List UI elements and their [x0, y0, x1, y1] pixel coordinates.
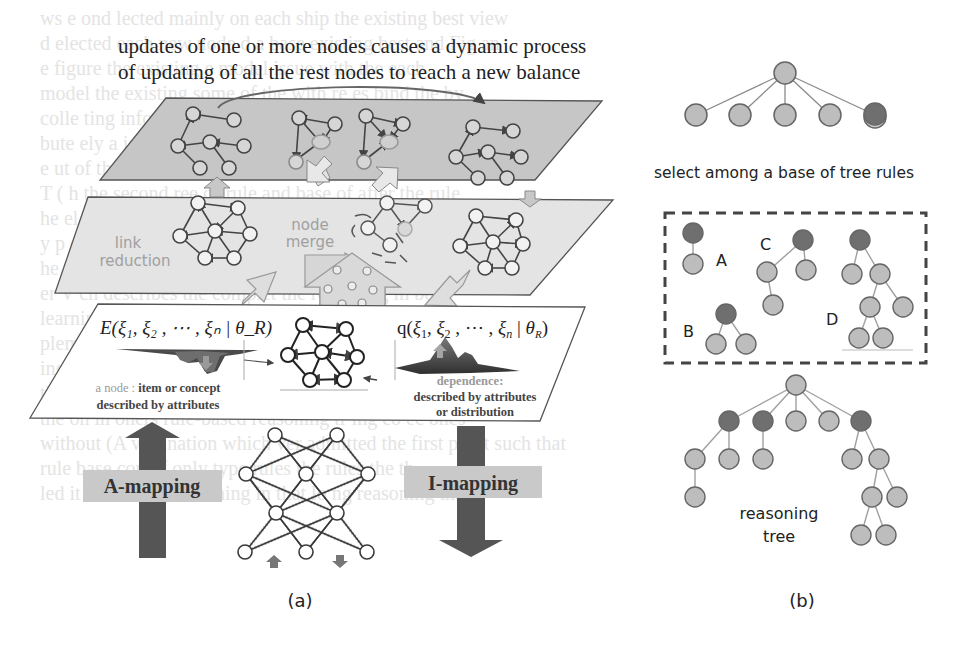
node-merge-label-1: node — [291, 216, 328, 234]
node-caption-prefix: a node : — [95, 381, 135, 395]
i-mapping-label: I-mapping — [428, 472, 518, 495]
figure-title: updates of one or more nodes causes a dy… — [118, 34, 586, 84]
node-caption-line-2: described by attributes — [97, 398, 220, 412]
dependence-caption-line-3: or distribution — [436, 405, 514, 419]
rule-label-d: D — [826, 310, 838, 329]
a-mapping-label: A-mapping — [104, 475, 201, 498]
rule-label-b: B — [683, 322, 694, 341]
link-reduction-label-1: link — [115, 234, 142, 252]
rule-label-c: C — [760, 235, 771, 254]
dependence-caption-line-2: described by attributes — [414, 390, 537, 404]
middle-layer: link reduction node merge — [55, 196, 613, 309]
nn-up-arrow — [266, 555, 282, 568]
node-caption-line-1: a node : item or concept — [95, 381, 221, 395]
top-layer — [100, 87, 602, 207]
base-tree — [685, 62, 886, 128]
figure-canvas: updates of one or more nodes causes a dy… — [0, 0, 961, 646]
dependence-caption-line-1: dependence: — [437, 374, 504, 388]
bottom-layer: E(ξ₁, ξ₂ , ⋯ , ξₙ | θ_R) a node : item o… — [30, 304, 585, 421]
select-caption: select among a base of tree rules — [654, 164, 914, 182]
reasoning-caption-2: tree — [763, 527, 795, 546]
panel-b-label: (b) — [789, 590, 814, 611]
energy-formula: E(ξ₁, ξ₂ , ⋯ , ξₙ | θ_R) — [99, 317, 272, 339]
node-caption-main: item or concept — [135, 381, 221, 395]
title-line-1: updates of one or more nodes causes a dy… — [118, 34, 586, 58]
link-reduction-label-2: reduction — [99, 252, 170, 270]
a-mapping-arrow: A-mapping — [83, 422, 222, 558]
rule-label-a: A — [716, 251, 727, 270]
rule-trees — [683, 223, 913, 354]
title-line-2: of updating of all the rest nodes to rea… — [118, 60, 580, 84]
nn-down-arrow — [332, 555, 348, 568]
panel-a-label: (a) — [287, 590, 312, 611]
i-mapping-arrow: I-mapping — [404, 426, 542, 557]
distribution-formula: q(ξ1, ξ2 , ⋯ , ξn | θR) — [397, 317, 548, 341]
node-merge-label-2: merge — [286, 233, 335, 251]
reasoning-caption-1: reasoning — [740, 504, 819, 523]
neural-network — [238, 428, 375, 568]
